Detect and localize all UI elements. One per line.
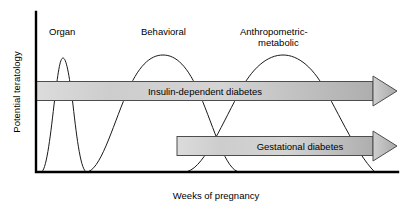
gestational-band-arrowhead-icon bbox=[373, 131, 397, 161]
x-axis-title: Weeks of pregnancy bbox=[173, 190, 260, 201]
label-organ: Organ bbox=[49, 26, 75, 37]
gestational-band-label: Gestational diabetes bbox=[257, 141, 344, 152]
insulin-band-arrowhead-icon bbox=[373, 76, 397, 106]
label-anthropometric-metabolic-line2: metabolic bbox=[258, 37, 299, 48]
teratology-figure: Insulin-dependent diabetes Gestational d… bbox=[0, 0, 405, 209]
label-behavioral: Behavioral bbox=[141, 26, 186, 37]
band-gestational-diabetes: Gestational diabetes bbox=[177, 131, 397, 161]
curve-anthropometric-metabolic bbox=[184, 55, 386, 180]
insulin-band-label: Insulin-dependent diabetes bbox=[148, 86, 262, 97]
band-insulin-dependent-diabetes: Insulin-dependent diabetes bbox=[36, 76, 397, 106]
y-axis-title: Potential teratology bbox=[11, 51, 22, 133]
curve-group bbox=[41, 55, 386, 180]
chart-canvas: Insulin-dependent diabetes Gestational d… bbox=[0, 0, 405, 209]
label-anthropometric-metabolic-line1: Anthropometric- bbox=[240, 26, 308, 37]
curve-organ bbox=[41, 58, 87, 172]
